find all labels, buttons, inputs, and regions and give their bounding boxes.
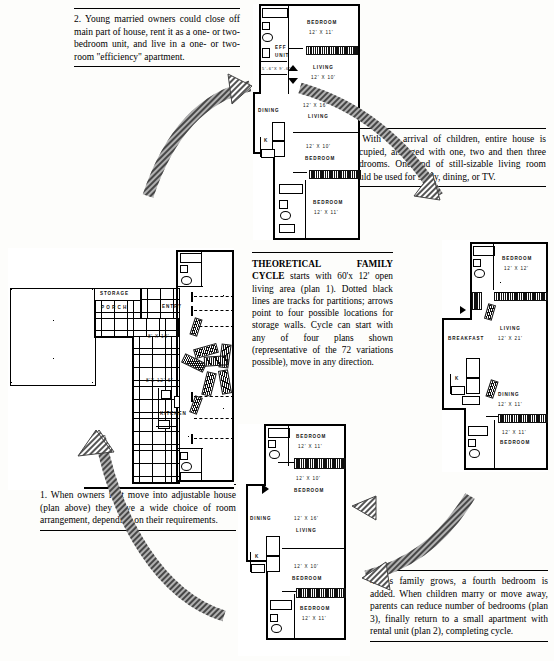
plan2-room-label-2: 5'-6"X 9'-6" [262, 66, 291, 71]
storage-wall [294, 458, 346, 469]
plan3-room-dim-4: 12' X 11' [498, 402, 522, 407]
caption-rule-bottom [350, 186, 546, 187]
plan4-room-dim-0: 12' X 11' [298, 444, 322, 449]
plan2-room-label-8: K [264, 138, 268, 143]
plan2-room-dim-3: 12' X 10' [311, 75, 336, 80]
plan2-room-dim-6: 12' X 10' [306, 144, 331, 149]
caption-rule-top [370, 570, 548, 571]
diagram-page: 2. Young married owners could close off … [0, 0, 554, 661]
center-note-rule [252, 252, 393, 253]
plan2-room-dim-5: 12' X 16' [303, 103, 328, 108]
plan3-room-dim-1: 12' X 21' [498, 336, 523, 341]
terrace [10, 288, 96, 386]
caption-plan-2-text: 2. Young married owners could close off … [74, 13, 240, 63]
center-note-body: THEORETICAL FAMILY CYCLE starts with 60'… [252, 258, 393, 369]
plan3-room-dim-5: 12' X 11' [502, 430, 526, 435]
plan3-room-label-5: BEDROOM [500, 440, 530, 445]
storage-wall [201, 371, 217, 397]
plan1-room-label-3: KITCHEN [160, 411, 187, 416]
plan4-room-dim-1: 12' X 10' [296, 476, 321, 481]
plan4-room-label-5: BEDROOM [300, 606, 330, 611]
plan2-room-label-4: DINING [258, 108, 279, 113]
plan2-room-dim-7: 12' X 11' [314, 210, 338, 215]
plan3-room-label-1: LIVING [500, 326, 521, 331]
storage-wall [498, 414, 548, 423]
plan1-room-label-2: ENTRY [162, 304, 182, 309]
plan1-room-label-0: STORAGE [100, 291, 129, 296]
plan2-room-label-5: LIVING [308, 114, 329, 119]
caption-plan-4-text: 4. As family grows, a fourth bedroom is … [370, 575, 548, 638]
caption-plan-1-text: 1. When owners first move into adjustabl… [40, 489, 236, 527]
plan2-room-dim-1: UNIT [275, 53, 289, 58]
plan3-room-label-3: K [455, 376, 459, 381]
plan4-room-label-6: K [255, 554, 259, 559]
porch-paving [94, 300, 142, 320]
plan4-room-dim-4: 12' X 10' [294, 564, 319, 569]
storage-wall [306, 46, 358, 55]
caption-rule-top [74, 8, 240, 9]
caption-rule-bottom [74, 66, 240, 67]
caption-plan-2: 2. Young married owners could close off … [74, 8, 240, 67]
plan4-room-dim-5: 12' X 11' [302, 616, 326, 621]
caption-rule-bottom [370, 641, 548, 642]
plan-3-right[interactable]: BEDROOM 12' X 12' LIVING 12' X 21' BREAK… [442, 240, 548, 472]
caption-plan-4: 4. As family grows, a fourth bedroom is … [370, 570, 548, 642]
arrow-plan1-to-plan2 [148, 74, 252, 196]
storage-wall [218, 369, 232, 394]
plan4-room-label-4: BEDROOM [292, 576, 322, 581]
plan1-room-dim-5: 8'X 12'-6" [146, 378, 173, 383]
plan-4-bottom[interactable]: BEDROOM 12' X 11' 12' X 10' BEDROOM DINI… [238, 424, 350, 656]
plan3-room-dim-0: 12' X 12' [504, 266, 529, 271]
caption-plan-3-text: 3. With the arrival of children, entire … [350, 133, 546, 183]
plan4-room-label-3: LIVING [296, 528, 317, 533]
arrow-pointer-plan4-right [352, 496, 376, 520]
storage-wall [484, 303, 496, 321]
plan1-room-label-1: PORCH [101, 305, 129, 310]
plan3-room-label-0: BEDROOM [502, 256, 532, 261]
plan3-room-label-4: DINING [498, 392, 519, 397]
plan3-room-label-2: BREAKFAST [448, 336, 484, 341]
center-note-text: starts with 60'x 12' open living area (p… [252, 271, 393, 367]
caption-plan-1: 1. When owners first move into adjustabl… [40, 484, 236, 531]
plan2-room-label-0: BEDROOM [307, 20, 337, 25]
plan1-room-dim-4: 8' X 10' [148, 334, 169, 339]
caption-rule-bottom [40, 530, 236, 531]
plan-1-left[interactable]: STORAGE PORCH ENTRY [8, 248, 234, 490]
plan4-room-label-0: BEDROOM [296, 434, 326, 439]
plan4-room-label-2: DINING [250, 516, 271, 521]
plan2-room-dim-0: 12' X 11' [309, 30, 333, 35]
caption-rule-top [350, 128, 546, 129]
plan4-room-label-1: BEDROOM [294, 488, 324, 493]
plan2-room-label-3: LIVING [313, 65, 334, 70]
storage-wall [189, 317, 202, 337]
plan2-room-label-1: EFF [275, 45, 286, 50]
plan4-room-dim-3: 12' X 16' [294, 516, 319, 521]
plan2-room-label-7: BEDROOM [313, 200, 343, 205]
caption-plan-3: 3. With the arrival of children, entire … [350, 128, 546, 187]
plan-2-top[interactable]: BEDROOM 12' X 11' EFF UNIT 5'-6"X 9'-6" … [253, 4, 360, 240]
storage-wall [296, 588, 346, 598]
center-explanatory-note: THEORETICAL FAMILY CYCLE starts with 60'… [252, 252, 393, 369]
storage-wall [494, 292, 548, 301]
storage-wall [485, 379, 498, 399]
plan2-room-label-6: BEDROOM [305, 156, 335, 161]
storage-wall [472, 292, 482, 310]
storage-wall [309, 170, 361, 179]
storage-wall [204, 355, 229, 367]
